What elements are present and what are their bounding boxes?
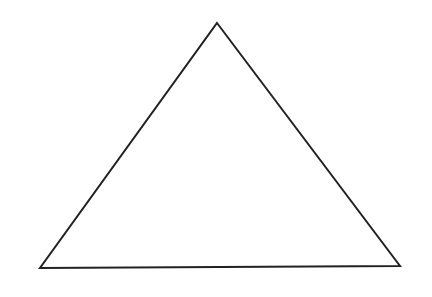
diagram-canvas [0, 0, 432, 297]
triangle-shape [40, 23, 400, 268]
